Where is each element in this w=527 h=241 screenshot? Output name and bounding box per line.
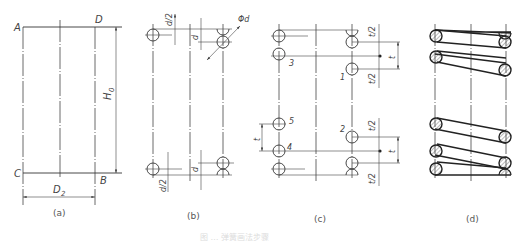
coil-number-1: 1 [340, 73, 345, 82]
wire-diameter-label: d [191, 34, 200, 40]
panel-c: 3 1 t/2 t/2 t 5 2 4 t t/2 t/2 t (c) [253, 24, 400, 224]
svg-text:0: 0 [108, 87, 116, 92]
diameter-label: D 2 [53, 184, 66, 198]
figure-caption: 图 … 弹簧画法步骤 [200, 232, 269, 241]
pitch-label: t [388, 149, 397, 153]
half-diameter-label: d/2 [165, 13, 174, 26]
coil-section [430, 145, 442, 157]
svg-text:H: H [102, 92, 113, 100]
panel-b: d/2 d Φd d/2 d (b) [145, 13, 250, 221]
phi-diameter-leader [207, 26, 240, 60]
half-coil-section [499, 169, 511, 175]
pitch-label: t [388, 55, 397, 59]
panel-caption-a: (a) [53, 208, 66, 218]
coil-section [430, 30, 442, 42]
half-pitch-label: t/2 [368, 26, 377, 37]
spring-drawing-figure: A D C B H 0 D 2 (a) d/2 d Φd [0, 0, 527, 241]
half-pitch-label: t/2 [368, 120, 377, 131]
svg-text:2: 2 [61, 190, 66, 198]
coil-number-2: 2 [340, 125, 345, 134]
spring-bottom-coils [430, 118, 511, 175]
coil-section [499, 157, 511, 169]
phi-diameter-label: Φd [238, 15, 250, 24]
panel-d: (d) [430, 24, 511, 224]
coil-section [499, 131, 511, 143]
wire-diameter-label: d [191, 166, 200, 172]
coil-section [430, 51, 442, 63]
half-pitch-label: t/2 [368, 73, 377, 84]
svg-text:D: D [53, 184, 61, 195]
point-label-c: C [14, 168, 21, 179]
half-diameter-label: d/2 [159, 179, 168, 192]
point-label-d: D [95, 14, 103, 25]
coil-number-5: 5 [289, 117, 294, 126]
point-label-a: A [13, 22, 21, 33]
coil-section [430, 163, 442, 175]
coil-number-3: 3 [289, 59, 294, 68]
half-pitch-label: t/2 [368, 173, 377, 184]
spring-top-coils [430, 30, 511, 76]
coil-section [499, 64, 511, 76]
panel-caption-c: (c) [314, 214, 326, 224]
height-label: H 0 [102, 87, 116, 100]
panel-a: A D C B H 0 D 2 (a) [13, 14, 122, 218]
panel-caption-b: (b) [187, 211, 200, 221]
coil-section [430, 118, 442, 130]
panel-caption-d: (d) [466, 214, 479, 224]
pitch-label: t [253, 137, 262, 141]
coil-number-4: 4 [287, 143, 292, 152]
point-label-b: B [100, 175, 107, 186]
